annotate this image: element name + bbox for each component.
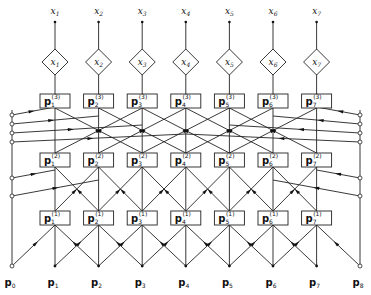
label-subscript: 4: [182, 101, 186, 108]
label-subscript: 1: [51, 160, 55, 167]
label-superscript: (2): [270, 152, 279, 159]
rail-edge: [229, 125, 360, 133]
output-label: x1: [51, 6, 60, 17]
arrowhead-icon: [48, 119, 54, 122]
label-subscript: 7: [313, 218, 317, 225]
label-subscript: 4: [185, 10, 190, 17]
label-base: p: [218, 155, 225, 166]
label-base: p: [44, 213, 51, 224]
label-subscript: 4: [182, 218, 186, 225]
output-dot: [315, 21, 318, 24]
label-subscript: 2: [95, 101, 99, 108]
label-base: p: [135, 277, 142, 288]
arrowhead-icon: [31, 173, 37, 176]
rail-node: [10, 176, 14, 180]
input-label: p4: [178, 277, 189, 289]
label-base: p: [88, 155, 95, 166]
input-dot: [272, 265, 275, 268]
label-base: p: [5, 277, 12, 288]
output-dot: [228, 21, 231, 24]
label-subscript: 3: [138, 218, 142, 225]
rail-node: [10, 131, 14, 135]
label-base: p: [175, 155, 182, 166]
rail-node: [358, 113, 362, 117]
input-dot: [184, 265, 187, 268]
label-subscript: 0: [12, 282, 16, 289]
input-node: [358, 264, 362, 268]
input-label: p0: [5, 277, 16, 289]
label-base: p: [262, 213, 269, 224]
input-dot: [97, 265, 100, 268]
label-superscript: (1): [182, 210, 191, 217]
label-superscript: (2): [139, 152, 148, 159]
output-label: x5: [225, 6, 234, 17]
rail-node: [358, 122, 362, 126]
label-subscript: 6: [274, 10, 278, 17]
arrowhead-icon: [87, 137, 93, 140]
input-label: p6: [266, 277, 277, 289]
label-subscript: 8: [360, 282, 364, 289]
label-superscript: (3): [95, 93, 104, 100]
label-subscript: 2: [98, 282, 102, 289]
label-superscript: (2): [95, 152, 104, 159]
input-edge: [317, 225, 360, 266]
output-label: x7: [312, 6, 321, 17]
rail-node: [358, 176, 362, 180]
label-subscript: 3: [143, 10, 147, 17]
label-base: p: [44, 96, 51, 107]
input-dot: [228, 265, 231, 268]
label-base: p: [44, 155, 51, 166]
input-dot: [141, 265, 144, 268]
label-superscript: (2): [226, 152, 235, 159]
label-subscript: 6: [274, 61, 278, 68]
label-base: p: [131, 213, 138, 224]
label-base: p: [222, 277, 229, 288]
label-base: p: [218, 96, 225, 107]
arrowhead-icon: [335, 173, 341, 176]
label-subscript: 3: [138, 160, 142, 167]
label-superscript: (1): [139, 210, 148, 217]
output-dot: [141, 21, 144, 24]
output-dot: [272, 21, 275, 24]
label-base: p: [131, 155, 138, 166]
label-subscript: 5: [230, 61, 234, 68]
label-subscript: 4: [185, 61, 190, 68]
label-subscript: 5: [225, 218, 229, 225]
label-base: p: [178, 277, 185, 288]
arrowhead-icon: [28, 110, 34, 113]
input-node: [10, 264, 14, 268]
lattice-diagram: x1x2x3x4x5x6x7x1x2x3x4x5x6x7p(3)1p(3)2p(…: [0, 0, 371, 295]
label-base: p: [306, 96, 313, 107]
label-base: p: [88, 213, 95, 224]
output-label: x6: [269, 6, 278, 17]
label-base: p: [131, 96, 138, 107]
rail-edge: [12, 125, 142, 133]
label-base: p: [353, 277, 360, 288]
label-base: p: [91, 277, 98, 288]
arrowhead-icon: [318, 119, 324, 122]
label-superscript: (2): [313, 152, 322, 159]
arrowhead-icon: [337, 110, 343, 113]
input-dot: [315, 265, 318, 268]
label-subscript: 2: [98, 10, 103, 17]
rail-node: [10, 194, 14, 198]
label-superscript: (3): [270, 93, 279, 100]
label-superscript: (2): [52, 152, 61, 159]
label-subscript: 7: [317, 10, 321, 17]
label-superscript: (1): [52, 210, 61, 217]
label-subscript: 5: [230, 10, 234, 17]
label-subscript: 3: [138, 101, 142, 108]
label-subscript: 2: [95, 160, 99, 167]
output-label: x2: [94, 6, 103, 17]
label-base: p: [309, 277, 316, 288]
label-superscript: (1): [313, 210, 322, 217]
input-label: p3: [135, 277, 146, 289]
label-subscript: 7: [317, 61, 321, 68]
input-label: p2: [91, 277, 102, 289]
input-label: p7: [309, 277, 320, 289]
label-superscript: (1): [95, 210, 104, 217]
label-base: p: [266, 277, 273, 288]
label-base: p: [218, 213, 225, 224]
label-subscript: 1: [56, 61, 60, 68]
rail-node: [10, 140, 14, 144]
